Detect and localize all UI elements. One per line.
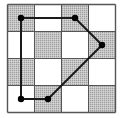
vertex-dot — [99, 42, 105, 48]
white-cell — [62, 32, 89, 59]
white-cell — [89, 59, 116, 86]
vertex-dot — [18, 96, 24, 102]
shaded-cell — [35, 32, 62, 59]
grid-diagram — [0, 0, 121, 118]
white-cell — [62, 86, 89, 113]
vertex-dot — [18, 15, 24, 21]
vertex-dot — [72, 15, 78, 21]
shaded-cell — [89, 86, 116, 113]
vertex-dot — [45, 96, 51, 102]
white-cell — [35, 59, 62, 86]
white-cell — [89, 5, 116, 32]
